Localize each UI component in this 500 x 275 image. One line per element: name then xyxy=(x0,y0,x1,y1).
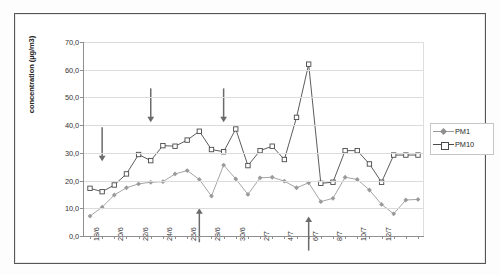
x-tick-mark xyxy=(187,236,188,239)
x-tick-mark xyxy=(175,236,176,239)
legend-marker-pm10 xyxy=(433,139,454,150)
legend-item-pm1[interactable]: PM1 xyxy=(433,125,470,138)
data-point xyxy=(294,115,298,119)
series-line xyxy=(90,64,418,191)
data-point xyxy=(149,158,153,162)
y-tick-label: 40,0 xyxy=(35,121,79,130)
x-tick-mark xyxy=(199,236,200,239)
gridline xyxy=(84,97,424,98)
data-point xyxy=(306,62,310,66)
x-tick-mark xyxy=(406,236,407,239)
data-point xyxy=(270,144,274,148)
x-tick-mark xyxy=(151,236,152,239)
x-tick-mark xyxy=(394,236,395,239)
data-point xyxy=(197,129,201,133)
x-tick-mark xyxy=(211,236,212,239)
legend-item-pm10[interactable]: PM10 xyxy=(433,138,474,151)
legend-marker-pm1 xyxy=(433,126,454,137)
scan-frame-border: concentration (µg/m3) 0,010,020,030,040,… xyxy=(14,13,486,264)
x-tick-mark xyxy=(418,236,419,239)
data-point xyxy=(173,144,177,148)
gridline xyxy=(84,70,424,71)
gridline xyxy=(84,125,424,126)
data-point xyxy=(331,196,336,201)
data-point xyxy=(161,143,165,147)
data-point xyxy=(112,183,116,187)
arrow-head xyxy=(99,156,106,162)
arrow-down-1-annotation xyxy=(99,127,106,161)
data-point xyxy=(185,138,189,142)
x-tick-mark xyxy=(382,236,383,239)
x-tick-mark xyxy=(297,236,298,239)
x-tick-mark xyxy=(357,236,358,239)
arrow-down-2-annotation xyxy=(147,88,154,122)
y-tick-label: 0,0 xyxy=(35,232,79,241)
chart-legend: PM1 PM10 xyxy=(430,123,494,155)
x-tick-mark xyxy=(224,236,225,239)
gridline xyxy=(84,153,424,154)
x-tick-mark xyxy=(139,236,140,239)
arrow-head xyxy=(147,117,154,123)
arrow-down-3-annotation xyxy=(220,88,227,122)
series-pm1 xyxy=(88,163,421,219)
x-tick-mark xyxy=(236,236,237,239)
data-point xyxy=(246,163,250,167)
x-tick-mark xyxy=(309,236,310,239)
data-point xyxy=(88,186,92,190)
chart-figure: concentration (µg/m3) 0,010,020,030,040,… xyxy=(0,0,500,275)
data-point xyxy=(124,185,129,190)
y-tick-label: 50,0 xyxy=(35,93,79,102)
data-point xyxy=(319,181,323,185)
x-tick-mark xyxy=(248,236,249,239)
data-point xyxy=(282,157,286,161)
x-tick-mark xyxy=(126,236,127,239)
gridline xyxy=(84,42,424,43)
plot-right-rule xyxy=(423,42,424,236)
y-tick-label: 70,0 xyxy=(35,38,79,47)
x-tick-mark xyxy=(284,236,285,239)
x-tick-mark xyxy=(260,236,261,239)
x-tick-mark xyxy=(90,236,91,239)
y-tick-label: 10,0 xyxy=(35,204,79,213)
x-tick-mark xyxy=(272,236,273,239)
data-point xyxy=(343,175,348,180)
data-point xyxy=(416,197,421,202)
data-point xyxy=(234,127,238,131)
x-tick-mark xyxy=(321,236,322,239)
x-tick-mark xyxy=(114,236,115,239)
y-tick-label: 30,0 xyxy=(35,149,79,158)
x-tick-mark xyxy=(333,236,334,239)
x-tick-mark xyxy=(345,236,346,239)
x-tick-mark xyxy=(102,236,103,239)
data-point xyxy=(124,172,128,176)
gridline xyxy=(84,208,424,209)
data-point xyxy=(209,147,213,151)
x-tick-mark xyxy=(369,236,370,239)
data-point xyxy=(173,172,178,177)
x-tick-mark xyxy=(163,236,164,239)
series-layer xyxy=(84,42,424,236)
data-point xyxy=(294,185,299,190)
series-pm10 xyxy=(88,62,420,194)
arrow-head xyxy=(305,217,312,223)
gridline xyxy=(84,181,424,182)
legend-label-pm10: PM10 xyxy=(455,140,474,149)
data-point xyxy=(136,181,141,186)
plot-area xyxy=(83,42,424,237)
y-tick-label: 20,0 xyxy=(35,177,79,186)
data-point xyxy=(367,162,371,166)
arrow-head xyxy=(220,117,227,123)
data-point xyxy=(270,175,275,180)
data-point xyxy=(318,199,323,204)
data-point xyxy=(100,189,104,193)
legend-label-pm1: PM1 xyxy=(455,127,470,136)
y-tick-label: 60,0 xyxy=(35,66,79,75)
